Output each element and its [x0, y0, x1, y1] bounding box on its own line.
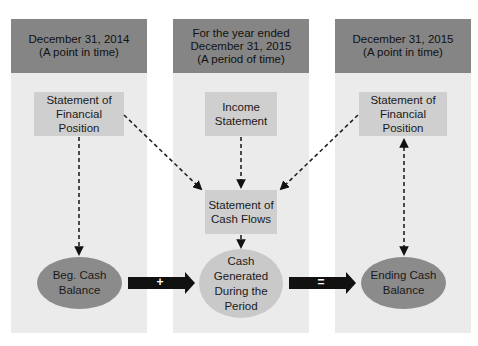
- box-line: Statement: [215, 114, 267, 128]
- header-dec-31-2015: December 31, 2015 (A point in time): [335, 19, 471, 73]
- header-line: (A point in time): [39, 46, 119, 59]
- header-line: (A point in time): [363, 46, 443, 59]
- income-statement: Income Statement: [205, 92, 277, 136]
- ellipse-beginning-cash-balance: Beg. Cash Balance: [37, 257, 122, 309]
- statement-financial-position-2014: Statement of Financial Position: [34, 92, 124, 136]
- header-line: December 31, 2015: [190, 40, 291, 53]
- ellipse-line: Balance: [383, 283, 425, 298]
- ellipse-ending-cash-balance: Ending Cash Balance: [361, 257, 446, 309]
- header-dec-31-2014: December 31, 2014 (A point in time): [11, 19, 147, 73]
- ellipse-line: During the: [214, 284, 267, 299]
- header-year-2015: For the year ended December 31, 2015 (A …: [173, 19, 309, 73]
- box-line: Income: [222, 100, 260, 114]
- header-line: December 31, 2014: [28, 33, 129, 46]
- box-line: Cash Flows: [211, 212, 271, 226]
- statement-financial-position-2015: Statement of Financial Position: [359, 92, 447, 136]
- statement-of-cash-flows: Statement of Cash Flows: [205, 190, 277, 234]
- ellipse-line: Cash Generated: [199, 254, 283, 284]
- plus-operator: +: [150, 275, 170, 289]
- box-line: Statement of: [208, 198, 273, 212]
- ellipse-line: Balance: [59, 283, 101, 298]
- ellipse-line: Ending Cash: [371, 268, 437, 283]
- ellipse-line: Beg. Cash: [53, 268, 107, 283]
- ellipse-line: Period: [224, 299, 257, 314]
- box-line: Financial Position: [359, 107, 447, 135]
- equals-operator: =: [311, 275, 331, 289]
- box-line: Financial Position: [34, 107, 124, 135]
- box-line: Statement of: [370, 93, 435, 107]
- header-line: December 31, 2015: [352, 33, 453, 46]
- header-line: For the year ended: [192, 27, 289, 40]
- header-line: (A period of time): [197, 53, 285, 66]
- box-line: Statement of: [46, 93, 111, 107]
- ellipse-cash-generated: Cash Generated During the Period: [199, 249, 283, 318]
